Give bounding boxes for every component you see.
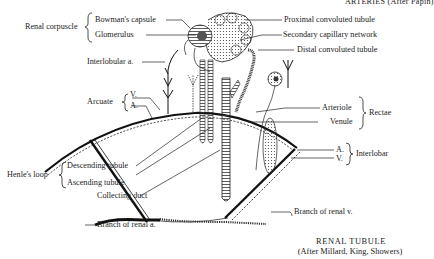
branch-renal-v-vessel: [160, 219, 266, 224]
label-interlobar: Interlobar: [356, 150, 388, 158]
label-branch-renal-v: Branch of renal v.: [294, 208, 353, 216]
label-arteriole: Arteriole: [322, 104, 352, 112]
label-interlobar-a: A.: [336, 146, 344, 154]
label-ascending-tubule: Ascending tubule: [67, 179, 125, 187]
collecting-duct: [222, 78, 230, 201]
label-rectae: Rectae: [369, 109, 391, 117]
label-bowmans-capsule: Bowman's capsule: [95, 16, 156, 24]
label-branch-renal-a: Branch of renal a.: [97, 221, 156, 229]
label-arcuate-v: V.: [130, 91, 137, 99]
glomerulus-shape: [197, 31, 207, 41]
label-interlobular-a: Interlobular a.: [87, 58, 133, 66]
label-venule: Venule: [330, 118, 353, 126]
vasa-recta-bundle: [263, 118, 277, 174]
label-arcuate-a: A.: [130, 102, 138, 110]
label-arcuate: Arcuate: [87, 98, 113, 106]
interlobular-artery: [163, 50, 178, 114]
label-distal-convoluted: Distal convoluted tubule: [297, 46, 378, 54]
cortex-cluster: [184, 13, 253, 72]
caption-credit: (After Millard, King, Showers): [290, 247, 410, 257]
label-secondary-capillary: Secondary capillary network: [283, 31, 377, 39]
label-henles-loop: Henle's loop: [7, 171, 48, 179]
label-collecting-duct: Collecting duct: [97, 192, 147, 200]
label-proximal-convoluted: Proximal convoluted tubule: [284, 16, 375, 24]
label-glomerulus: Glomerulus: [95, 31, 134, 39]
label-descending-tubule: Descending tubule: [67, 162, 128, 170]
caption-title: RENAL TUBULE: [292, 237, 410, 247]
label-interlobar-v: V.: [336, 155, 343, 163]
header-partial: ARTERIES (After Papin): [345, 0, 434, 6]
label-renal-corpuscle: Renal corpuscle: [25, 23, 78, 31]
